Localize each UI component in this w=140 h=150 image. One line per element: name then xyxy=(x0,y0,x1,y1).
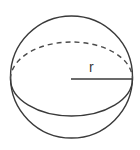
equator-front xyxy=(11,79,133,116)
equator-back-dashed xyxy=(11,42,133,79)
sphere-diagram: r xyxy=(0,0,140,150)
radius-label: r xyxy=(89,59,94,75)
sphere-outline xyxy=(11,16,133,138)
